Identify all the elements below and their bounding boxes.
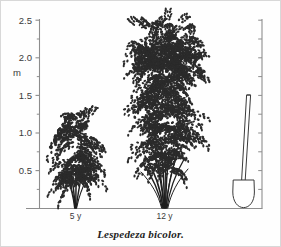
spade-scale-object: [233, 95, 255, 208]
right-axis: [258, 19, 262, 209]
figure-caption: Lespedeza bicolor.: [96, 228, 184, 240]
figure-border: [1, 1, 281, 247]
botanical-growth-figure: 2.5 2.0 1.5 1.0 0.5 m: [0, 0, 281, 247]
plot-canvas: 2.5 2.0 1.5 1.0 0.5 m: [0, 0, 281, 247]
x-label-shrub-5y: 5 y: [70, 211, 82, 221]
y-axis: [36, 19, 40, 209]
shrub-5y-foliage: [45, 105, 109, 210]
y-axis-unit-label: m: [13, 67, 21, 78]
y-tick-label-1-5: 1.5: [19, 90, 32, 101]
shrub-12y: [122, 7, 211, 208]
y-tick-label-0-5: 0.5: [19, 165, 32, 176]
shrub-5y: [45, 105, 109, 210]
y-tick-label-1-0: 1.0: [19, 127, 32, 138]
y-tick-label-2-0: 2.0: [19, 52, 32, 63]
y-tick-label-2-5: 2.5: [19, 15, 32, 26]
shrub-12y-foliage: [122, 7, 211, 189]
x-label-shrub-12y: 12 y: [156, 211, 173, 221]
